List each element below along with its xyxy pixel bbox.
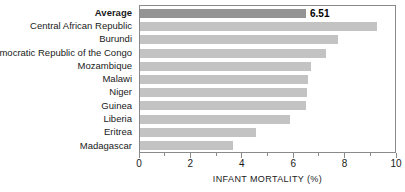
bar-row: 6.51 (140, 7, 395, 20)
bar-value-label: 6.51 (310, 9, 329, 19)
bar (140, 22, 377, 31)
x-axis-tick-label: 0 (136, 159, 142, 169)
bar-average (140, 9, 306, 18)
bar-row (140, 60, 395, 73)
bar (140, 35, 338, 44)
category-label: Malawi (0, 72, 136, 85)
bar (140, 115, 290, 124)
bar-row (140, 126, 395, 139)
bar (140, 75, 308, 84)
category-label-column: AverageCentral African RepublicBurundiDe… (0, 6, 136, 152)
x-axis-tick-label: 6 (290, 159, 296, 169)
category-label: Madagascar (0, 139, 136, 152)
bar (140, 88, 307, 97)
bar-row (140, 73, 395, 86)
bars-area: 6.51 (140, 7, 395, 152)
category-label: Niger (0, 86, 136, 99)
bar (140, 62, 311, 71)
x-axis-tick-label: 2 (188, 159, 194, 169)
category-label: Liberia (0, 112, 136, 125)
category-label: Democratic Republic of the Congo (0, 46, 136, 59)
bar-row (140, 47, 395, 60)
category-label: Eritrea (0, 125, 136, 138)
bar-row (140, 99, 395, 112)
x-axis-title: INFANT MORTALITY (%) (139, 175, 396, 184)
bar (140, 101, 306, 110)
category-label-average: Average (0, 6, 136, 19)
bar-row (140, 86, 395, 99)
x-axis-minor-tick (318, 153, 319, 156)
x-axis-minor-tick (164, 153, 165, 156)
infant-mortality-bar-chart: AverageCentral African RepublicBurundiDe… (0, 0, 405, 192)
bar-row (140, 113, 395, 126)
bar-row (140, 33, 395, 46)
x-axis-tick-label: 8 (342, 159, 348, 169)
plot-frame: 6.51 (139, 5, 396, 153)
category-label: Burundi (0, 33, 136, 46)
bar (140, 128, 256, 137)
bar-row (140, 139, 395, 152)
category-label: Mozambique (0, 59, 136, 72)
category-label: Guinea (0, 99, 136, 112)
x-axis-minor-tick (216, 153, 217, 156)
bar (140, 141, 233, 150)
x-axis-minor-tick (370, 153, 371, 156)
x-axis-minor-tick (267, 153, 268, 156)
x-axis-tick-label: 10 (390, 159, 401, 169)
x-axis: INFANT MORTALITY (%) 0246810 (139, 153, 396, 192)
category-label: Central African Republic (0, 19, 136, 32)
bar (140, 49, 326, 58)
x-axis-tick-label: 4 (239, 159, 245, 169)
bar-row (140, 20, 395, 33)
